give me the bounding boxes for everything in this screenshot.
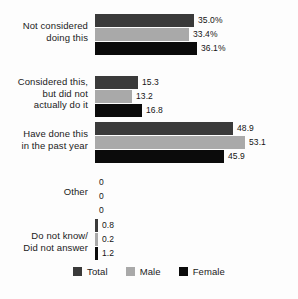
bar-row: 15.3 [95,76,298,89]
bar-male [95,90,132,103]
bar-value-label: 0 [99,177,104,188]
bar-value-label: 48.9 [237,123,254,134]
bar-value-label: 13.2 [136,91,153,102]
bar-row: 16.8 [95,104,298,117]
chart-legend: TotalMaleFemale [0,266,298,277]
legend-label: Total [87,266,108,277]
legend-item-total[interactable]: Total [73,266,108,277]
bar-male [95,233,98,246]
category-label-line: in the past year [0,140,88,152]
category-label-line: actually do it [0,99,88,111]
plot-area: Not considereddoing this35.0%33.4%36.1%C… [0,0,298,258]
bar-total [95,14,194,27]
category-label-line: Considered this, [0,76,88,88]
category-label-line: doing this [0,32,88,44]
bar-value-label: 0 [99,191,104,202]
legend-label: Female [193,266,225,277]
category-label-line: Did not answer [0,242,88,254]
category-label: Not considereddoing this [0,20,88,43]
bar-total [95,219,98,232]
grouped-bar-chart: Not considereddoing this35.0%33.4%36.1%C… [0,0,298,299]
legend-swatch-icon [179,267,188,276]
bar-row: 1.2 [95,247,298,260]
category-label: Do not know/Did not answer [0,230,88,253]
bar-row: 36.1% [95,42,298,55]
bar-value-label: 45.9 [228,151,245,162]
bar-row: 0 [95,176,298,189]
category-label-line: Have done this [0,128,88,140]
category-label-line: Do not know/ [0,230,88,242]
bar-female [95,150,224,163]
bar-female [95,42,197,55]
category-label-line: Not considered [0,20,88,32]
bar-row: 13.2 [95,90,298,103]
bar-row: 45.9 [95,150,298,163]
bar-male [95,28,189,41]
bar-value-label: 33.4% [193,29,218,40]
legend-swatch-icon [73,267,82,276]
legend-item-female[interactable]: Female [179,266,225,277]
category-label: Considered this,but did notactually do i… [0,76,88,111]
bar-group-bars: 35.0%33.4%36.1% [95,14,298,55]
bar-total [95,122,233,135]
bar-group-bars: 48.953.145.9 [95,122,298,163]
legend-swatch-icon [126,267,135,276]
legend-item-male[interactable]: Male [126,266,161,277]
bar-row: 48.9 [95,122,298,135]
category-label: Have done thisin the past year [0,128,88,151]
bar-row: 0 [95,204,298,217]
bar-female [95,247,98,260]
category-label-line: Other [0,186,88,198]
bar-group-bars: 15.313.216.8 [95,76,298,117]
bar-female [95,104,142,117]
bar-group-bars: 0.80.21.2 [95,219,298,260]
category-label: Other [0,186,88,198]
bar-row: 0 [95,190,298,203]
bar-value-label: 1.2 [102,248,114,259]
bar-value-label: 16.8 [146,105,163,116]
bar-value-label: 36.1% [201,43,226,54]
legend-label: Male [140,266,161,277]
bar-row: 33.4% [95,28,298,41]
bar-total [95,76,138,89]
bar-value-label: 35.0% [198,15,223,26]
bar-row: 0.8 [95,219,298,232]
bar-group-bars: 000 [95,176,298,217]
bar-value-label: 53.1 [249,137,266,148]
bar-male [95,136,245,149]
bar-row: 35.0% [95,14,298,27]
category-label-line: but did not [0,88,88,100]
bar-row: 53.1 [95,136,298,149]
bar-value-label: 0.2 [102,234,114,245]
bar-value-label: 15.3 [142,77,159,88]
bar-row: 0.2 [95,233,298,246]
bar-value-label: 0 [99,205,104,216]
bar-value-label: 0.8 [102,220,114,231]
